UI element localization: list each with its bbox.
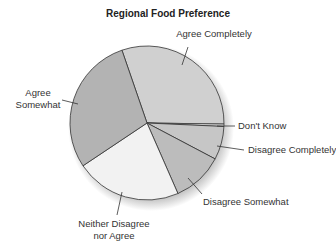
pie-slices [70, 46, 224, 200]
slice-label: Disagree Somewhat [203, 196, 289, 207]
slice-label: nor Agree [93, 230, 134, 241]
slice-label: Agree [25, 87, 50, 98]
pie-chart: Agree CompletelyDon't KnowDisagree Compl… [0, 0, 336, 251]
slice-label: Somewhat [16, 99, 61, 110]
slice-label: Disagree Completely [248, 144, 336, 155]
slice-label: Don't Know [238, 120, 286, 131]
slice-label: Neither Disagree [78, 218, 149, 229]
slice-label: Agree Completely [176, 28, 252, 39]
